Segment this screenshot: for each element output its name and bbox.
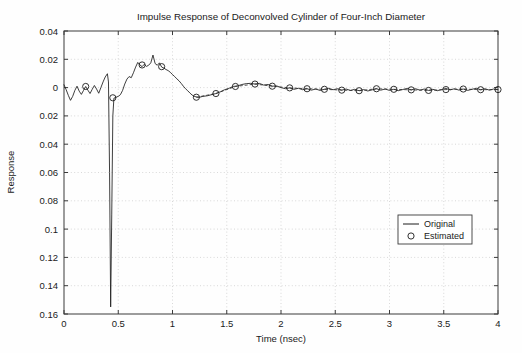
y-tick-label: 0.1 (45, 224, 58, 235)
x-tick-label: 0 (61, 318, 66, 329)
y-axis-title: Response (5, 151, 16, 194)
y-tick-label: 0.04 (40, 139, 59, 150)
x-tick-label: 2.5 (329, 318, 342, 329)
x-axis-title: Time (nsec) (256, 333, 306, 344)
y-tick-label: 0.16 (40, 309, 59, 320)
legend-label-estimated: Estimated (424, 231, 464, 241)
grid-layer (64, 31, 498, 314)
tick-labels-layer: 00.511.522.533.540.040.0200.020.040.060.… (40, 26, 501, 330)
series-estimated-line (196, 84, 498, 97)
y-tick-label: 0.14 (40, 280, 59, 291)
x-tick-label: 0.5 (112, 318, 125, 329)
x-tick-label: 1 (170, 318, 175, 329)
chart-title: Impulse Response of Deconvolved Cylinder… (137, 11, 426, 22)
x-tick-label: 3.5 (437, 318, 450, 329)
y-tick-label: 0.04 (40, 26, 59, 37)
y-tick-label: 0.06 (40, 167, 59, 178)
y-tick-label: 0.08 (40, 195, 59, 206)
y-tick-label: 0.02 (40, 110, 59, 121)
chart-page: 00.511.522.533.540.040.0200.020.040.060.… (0, 0, 522, 353)
x-tick-label: 1.5 (220, 318, 233, 329)
impulse-response-chart: 00.511.522.533.540.040.0200.020.040.060.… (0, 0, 522, 353)
legend-label-original: Original (424, 219, 455, 229)
y-tick-label: 0.12 (40, 252, 59, 263)
y-tick-label: 0 (53, 82, 58, 93)
legend-box[interactable]: OriginalEstimated (398, 215, 472, 244)
y-tick-label: 0.02 (40, 54, 59, 65)
x-tick-label: 4 (495, 318, 500, 329)
series-layer (64, 55, 501, 307)
x-tick-label: 3 (387, 318, 392, 329)
x-tick-label: 2 (278, 318, 283, 329)
